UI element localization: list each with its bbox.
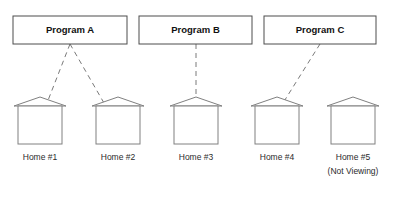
house-home-2[interactable]: [92, 97, 144, 144]
program-a-label: Program A: [46, 24, 94, 35]
home-label-group: Home #1 Home #2 Home #3 Home #4 Home #5 …: [23, 152, 379, 176]
home-4-roof-icon: [251, 97, 303, 106]
connector-program-a-home-1: [47, 44, 70, 103]
program-c-label: Program C: [296, 24, 345, 35]
home-1-roof-icon: [14, 97, 66, 106]
house-home-5[interactable]: [327, 97, 379, 144]
home-2-label: Home #2: [101, 152, 136, 162]
home-2-roof-icon: [92, 97, 144, 106]
home-3-roof-icon: [170, 97, 222, 106]
home-2-body: [96, 106, 140, 144]
home-1-body: [18, 106, 62, 144]
home-3-label: Home #3: [179, 152, 214, 162]
connector-program-a-home-2: [70, 44, 104, 103]
diagram-canvas: Program A Program B Program C: [0, 0, 399, 198]
program-box-program-a[interactable]: Program A: [13, 16, 127, 44]
house-home-3[interactable]: [170, 97, 222, 144]
connector-program-c-home-4: [283, 44, 320, 103]
program-box-program-c[interactable]: Program C: [264, 16, 376, 44]
home-5-roof-icon: [327, 97, 379, 106]
home-3-body: [174, 106, 218, 144]
home-1-label: Home #1: [23, 152, 58, 162]
program-b-label: Program B: [171, 24, 220, 35]
diagram-svg: Program A Program B Program C: [0, 0, 399, 198]
house-home-1[interactable]: [14, 97, 66, 144]
home-4-body: [255, 106, 299, 144]
home-5-body: [331, 106, 375, 144]
home-5-sublabel: (Not Viewing): [328, 166, 379, 176]
program-box-program-b[interactable]: Program B: [139, 16, 252, 44]
house-home-4[interactable]: [251, 97, 303, 144]
home-5-label: Home #5: [336, 152, 371, 162]
home-4-label: Home #4: [260, 152, 295, 162]
connector-group: [47, 44, 320, 103]
